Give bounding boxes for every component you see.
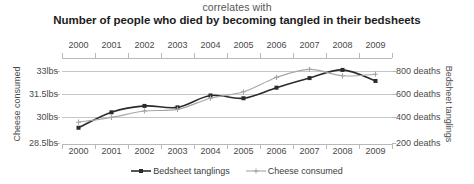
- data-point-marker: [143, 104, 147, 108]
- data-point-marker: [241, 89, 246, 94]
- series-bedsheet-tanglings: [77, 68, 378, 130]
- series-line: [79, 70, 376, 128]
- data-point-marker: [341, 68, 345, 72]
- data-point-marker: [374, 79, 378, 83]
- data-point-marker: [275, 86, 279, 90]
- data-point-marker: [308, 76, 312, 80]
- data-point-marker: [373, 72, 378, 77]
- legend-square-marker-icon: [131, 167, 151, 175]
- chart-legend: Bedsheet tanglingsCheese consumed: [0, 165, 474, 176]
- series-plot: [0, 0, 474, 184]
- data-point-marker: [142, 108, 147, 113]
- data-point-marker: [274, 75, 279, 80]
- data-point-marker: [76, 120, 81, 125]
- series-cheese-consumed: [76, 67, 378, 125]
- data-point-marker: [307, 67, 312, 72]
- data-point-marker: [77, 126, 81, 130]
- data-point-marker: [242, 96, 246, 100]
- chart-page: correlates with Number of people who die…: [0, 0, 474, 184]
- series-line: [79, 69, 376, 122]
- legend-item[interactable]: Cheese consumed: [246, 165, 343, 176]
- data-point-marker: [340, 73, 345, 78]
- legend-label: Bedsheet tanglings: [153, 166, 230, 176]
- legend-plus-marker-icon: [246, 167, 266, 175]
- data-point-marker: [110, 110, 114, 114]
- legend-label: Cheese consumed: [268, 166, 343, 176]
- data-point-marker: [109, 115, 114, 120]
- legend-item[interactable]: Bedsheet tanglings: [131, 165, 230, 176]
